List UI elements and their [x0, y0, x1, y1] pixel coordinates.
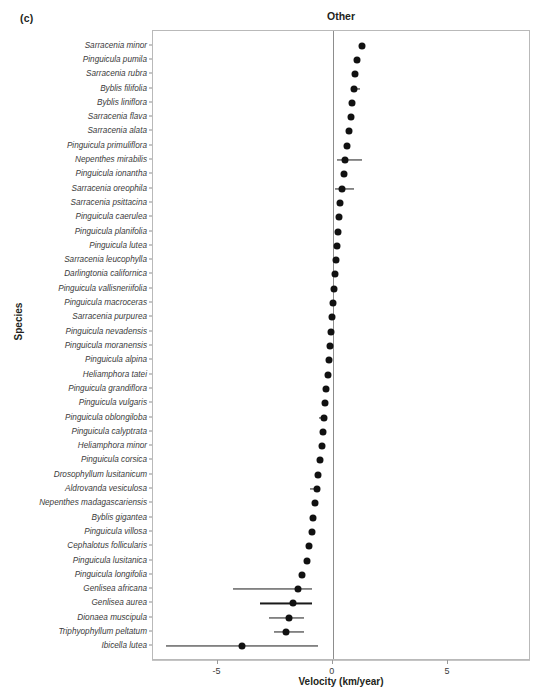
- y-axis-tick: [149, 516, 152, 517]
- data-point: [327, 328, 334, 335]
- data-point: [349, 99, 356, 106]
- y-axis-tick: [149, 373, 152, 374]
- y-axis-tick: [149, 488, 152, 489]
- data-point: [351, 71, 358, 78]
- y-axis-tick: [149, 359, 152, 360]
- species-tick-label: Byblis liniflora: [97, 97, 147, 106]
- data-point: [290, 600, 297, 607]
- species-tick-label: Drosophyllum lusitanicum: [54, 469, 147, 478]
- species-tick-label: Pinguicula villosa: [84, 526, 147, 535]
- data-point: [312, 500, 319, 507]
- y-axis-tick: [149, 345, 152, 346]
- y-axis-tick: [149, 416, 152, 417]
- data-point: [327, 343, 334, 350]
- y-axis-tick: [149, 244, 152, 245]
- species-tick-label: Ibicella lutea: [101, 641, 147, 650]
- x-axis-tick: [447, 660, 448, 664]
- data-point: [334, 228, 341, 235]
- species-tick-label: Nepenthes madagascariensis: [39, 498, 147, 507]
- y-axis-tick: [149, 530, 152, 531]
- x-axis-tick-label: 0: [329, 666, 334, 676]
- y-axis-tick: [149, 573, 152, 574]
- species-tick-label: Sarracenia purpurea: [72, 312, 147, 321]
- species-tick-label: Sarracenia flava: [88, 112, 147, 121]
- y-axis-tick: [149, 588, 152, 589]
- species-tick-label: Pinguicula oblongiloba: [65, 412, 147, 421]
- y-axis-tick: [149, 631, 152, 632]
- x-axis-tick: [217, 660, 218, 664]
- plot-inner: [153, 31, 529, 659]
- figure-panel-c: (c) Other Species Velocity (km/year) Sar…: [0, 0, 556, 700]
- y-axis-tick: [149, 216, 152, 217]
- data-point: [330, 300, 337, 307]
- species-tick-label: Byblis filifolia: [100, 83, 147, 92]
- species-tick-label: Pinguicula lutea: [89, 240, 147, 249]
- species-tick-label: Sarracenia minor: [85, 40, 147, 49]
- data-point: [346, 128, 353, 135]
- y-axis-tick: [149, 230, 152, 231]
- y-axis-tick: [149, 187, 152, 188]
- confidence-interval-bar: [260, 603, 312, 604]
- species-tick-label: Dionaea muscipula: [77, 612, 147, 621]
- data-point: [350, 85, 357, 92]
- species-tick-label: Pinguicula macroceras: [64, 298, 147, 307]
- data-point: [318, 443, 325, 450]
- species-tick-label: Pinguicula caerulea: [76, 212, 147, 221]
- data-point: [323, 385, 330, 392]
- data-point: [325, 357, 332, 364]
- y-axis-tick: [149, 616, 152, 617]
- y-axis-tick: [149, 302, 152, 303]
- species-tick-label: Cephalotus follicularis: [67, 541, 147, 550]
- y-axis-tick: [149, 58, 152, 59]
- y-axis-tick: [149, 316, 152, 317]
- y-axis-tick: [149, 273, 152, 274]
- species-tick-label: Pinguicula calyptrata: [71, 426, 147, 435]
- data-point: [320, 428, 327, 435]
- data-point: [328, 314, 335, 321]
- species-tick-label: Pinguicula planifolia: [75, 226, 147, 235]
- data-point: [308, 528, 315, 535]
- species-tick-label: Pinguicula alpina: [85, 355, 147, 364]
- y-axis-tick: [149, 402, 152, 403]
- data-point: [358, 42, 365, 49]
- species-tick-label: Pinguicula moranensis: [65, 341, 147, 350]
- data-point: [348, 114, 355, 121]
- data-point: [340, 171, 347, 178]
- species-tick-label: Pinguicula vulgaris: [79, 398, 147, 407]
- y-axis-tick: [149, 101, 152, 102]
- species-tick-label: Sarracenia psittacina: [71, 197, 147, 206]
- data-point: [333, 257, 340, 264]
- y-axis-title: Species: [13, 282, 24, 362]
- species-tick-label: Sarracenia alata: [87, 126, 147, 135]
- species-tick-label: Pinguicula pumila: [83, 54, 147, 63]
- data-point: [324, 371, 331, 378]
- data-point: [331, 285, 338, 292]
- y-axis-tick: [149, 473, 152, 474]
- data-point: [294, 586, 301, 593]
- data-point: [332, 271, 339, 278]
- species-tick-label: Heliamphora minor: [78, 441, 147, 450]
- y-axis-tick: [149, 459, 152, 460]
- y-axis-tick: [149, 259, 152, 260]
- data-point: [239, 643, 246, 650]
- y-axis-tick: [149, 173, 152, 174]
- species-tick-label: Darlingtonia californica: [64, 269, 147, 278]
- species-tick-label: Genlisea africana: [83, 584, 147, 593]
- y-axis-tick: [149, 545, 152, 546]
- species-tick-label: Heliamphora tatei: [83, 369, 147, 378]
- x-axis-tick: [332, 660, 333, 664]
- data-point: [341, 157, 348, 164]
- y-axis-tick: [149, 559, 152, 560]
- species-tick-label: Nepenthes mirabilis: [75, 155, 147, 164]
- species-tick-label: Pinguicula grandiflora: [68, 383, 147, 392]
- species-tick-label: Pinguicula lusitanica: [73, 555, 147, 564]
- chart-title: Other: [152, 10, 530, 22]
- species-tick-label: Pinguicula longifolia: [75, 569, 147, 578]
- y-axis-tick: [149, 502, 152, 503]
- species-tick-label: Pinguicula primuliflora: [67, 140, 147, 149]
- y-axis-tick: [149, 87, 152, 88]
- data-point: [286, 614, 293, 621]
- x-axis-tick-label: -5: [213, 666, 221, 676]
- y-axis-tick: [149, 330, 152, 331]
- x-axis-tick-label: 5: [445, 666, 450, 676]
